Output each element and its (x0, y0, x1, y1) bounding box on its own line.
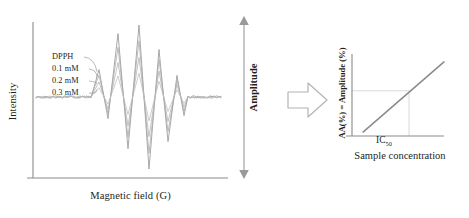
amplitude-annotation: Amplitude (232, 10, 272, 185)
ic50-guide-lines (352, 91, 409, 136)
epr-trace-group (36, 25, 221, 169)
regression-y-axis-label: AA(%) = Amplitude (%) (337, 41, 347, 146)
regression-line (363, 62, 444, 132)
regression-x-axis-label: Sample concentration (335, 150, 465, 161)
figure-container: Intensity Magnetic field (G) DPPH 0.1 mM… (0, 0, 469, 218)
series-label-dpph: DPPH (52, 52, 73, 61)
series-label-0-1-mm: 0.1 mM (52, 64, 79, 73)
ic50-subscript: 50 (386, 140, 392, 147)
series-label-0-2-mm: 0.2 mM (52, 76, 79, 85)
series-label-0-3-mm: 0.3 mM (52, 88, 79, 97)
amplitude-label: Amplitude (248, 53, 259, 123)
leader-line (89, 69, 97, 77)
series-leader-lines (84, 57, 97, 93)
regression-panel: AA(%) = Amplitude (%) IC50 Sample concen… (320, 48, 469, 218)
epr-y-axis-label: Intensity (7, 67, 18, 137)
ic50-annotation: IC50 (376, 135, 392, 147)
epr-x-axis-label: Magnetic field (G) (33, 190, 228, 201)
ic50-text: IC (376, 135, 386, 145)
